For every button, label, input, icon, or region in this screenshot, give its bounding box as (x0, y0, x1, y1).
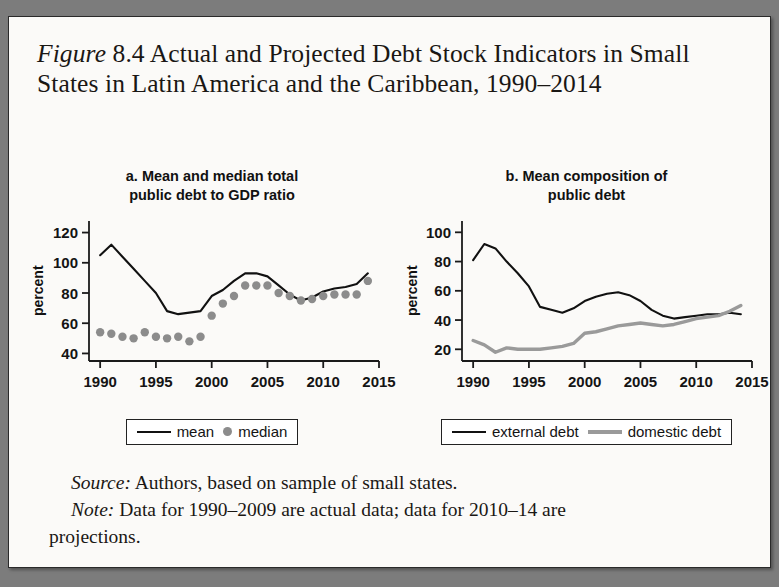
source-text: Authors, based on sample of small states… (131, 472, 458, 493)
legend-label-domestic-debt: domestic debt (628, 423, 721, 440)
data-point-median (230, 292, 238, 300)
x-tick-label: 2015 (362, 373, 395, 390)
data-point-median (341, 290, 349, 298)
panel-a-plot: 406080100120 199019952000200520102015 pe… (27, 213, 397, 413)
x-tick-label: 2000 (568, 373, 601, 390)
data-point-median (308, 295, 316, 303)
page-title: Figure 8.4 Actual and Projected Debt Sto… (37, 39, 727, 99)
line-swatch-gray-icon (588, 430, 622, 434)
y-tick-label: 80 (61, 285, 78, 302)
data-point-median (330, 290, 338, 298)
panel-b-y-axis-title: percent (404, 265, 420, 316)
panel-b-x-ticks: 199019952000200520102015 (456, 361, 768, 390)
panel-a-y-axis-title: percent (30, 265, 46, 316)
note-text: Data for 1990–2009 are actual data; data… (114, 499, 566, 520)
panel-a-y-ticks: 406080100120 (53, 224, 89, 362)
panel-b-y-ticks: 20406080100 (426, 224, 462, 358)
data-point-median (118, 333, 126, 341)
panel-b: b. Mean composition of public debt 20406… (404, 167, 769, 445)
x-tick-label: 2005 (624, 373, 657, 390)
panel-b-svg: 20406080100 199019952000200520102015 per… (404, 213, 769, 413)
legend-item-domestic-debt: domestic debt (588, 423, 721, 440)
data-point-median (241, 281, 249, 289)
figure-page: Figure 8.4 Actual and Projected Debt Sto… (8, 16, 771, 568)
series-line-domestic-debt (473, 305, 741, 352)
panel-b-legend: external debt domestic debt (441, 419, 732, 445)
legend-item-mean: mean (137, 423, 215, 440)
panel-a-legend: mean median (126, 419, 299, 445)
panel-b-title-line1: b. Mean composition of (506, 168, 668, 184)
line-swatch-icon (137, 431, 171, 433)
x-tick-label: 1995 (512, 373, 545, 390)
data-point-median (263, 281, 271, 289)
x-tick-label: 2010 (307, 373, 340, 390)
legend-label-external-debt: external debt (492, 423, 579, 440)
legend-item-external-debt: external debt (452, 423, 579, 440)
y-tick-label: 120 (53, 224, 78, 241)
data-point-median (364, 277, 372, 285)
x-tick-label: 1990 (83, 373, 116, 390)
panel-b-plot: 20406080100 199019952000200520102015 per… (404, 213, 769, 413)
data-point-median (196, 333, 204, 341)
note-label: Note: (71, 499, 114, 520)
data-point-median (219, 299, 227, 307)
y-tick-label: 100 (426, 224, 451, 241)
panel-a-svg: 406080100120 199019952000200520102015 pe… (27, 213, 397, 413)
data-point-median (352, 290, 360, 298)
figure-label: Figure (37, 39, 106, 68)
y-tick-label: 60 (61, 315, 78, 332)
legend-item-median: median (223, 423, 287, 440)
data-point-median (107, 330, 115, 338)
x-tick-label: 1995 (139, 373, 172, 390)
figure-notes: Source: Authors, based on sample of smal… (49, 469, 739, 550)
panel-a-title-line2: public debt to GDP ratio (129, 187, 295, 203)
y-tick-label: 100 (53, 254, 78, 271)
data-point-median (286, 292, 294, 300)
data-point-median (129, 334, 137, 342)
data-point-median (274, 289, 282, 297)
x-tick-label: 2000 (195, 373, 228, 390)
x-tick-label: 2015 (735, 373, 768, 390)
data-point-median (252, 281, 260, 289)
data-point-median (319, 292, 327, 300)
series-line-external-debt (473, 244, 741, 319)
figure-number-value: 8.4 (113, 39, 145, 68)
y-tick-label: 80 (434, 253, 451, 270)
source-line: Source: Authors, based on sample of smal… (49, 469, 739, 496)
panel-a-title-line1: a. Mean and median total (126, 168, 298, 184)
data-point-median (174, 333, 182, 341)
x-tick-label: 2005 (251, 373, 284, 390)
legend-label-median: median (238, 423, 287, 440)
y-tick-label: 20 (434, 341, 451, 358)
line-swatch-icon (452, 431, 486, 433)
data-point-median (207, 311, 215, 319)
panel-b-series (473, 244, 741, 352)
data-point-median (297, 296, 305, 304)
source-label: Source: (71, 472, 131, 493)
panel-b-title: b. Mean composition of public debt (404, 167, 769, 205)
panel-a: a. Mean and median total public debt to … (27, 167, 397, 445)
data-point-median (185, 337, 193, 345)
x-tick-label: 2010 (680, 373, 713, 390)
y-tick-label: 40 (61, 345, 78, 362)
panel-a-title: a. Mean and median total public debt to … (27, 167, 397, 205)
data-point-median (96, 328, 104, 336)
panel-a-x-ticks: 199019952000200520102015 (83, 361, 395, 390)
legend-label-mean: mean (177, 423, 215, 440)
panel-a-series (96, 245, 372, 346)
note-line: Note: Data for 1990–2009 are actual data… (49, 496, 739, 523)
x-tick-label: 1990 (456, 373, 489, 390)
data-point-median (152, 333, 160, 341)
panel-b-title-line2: public debt (548, 187, 625, 203)
note-line-continued: projections. (49, 523, 739, 550)
y-tick-label: 40 (434, 312, 451, 329)
data-point-median (163, 334, 171, 342)
y-tick-label: 60 (434, 282, 451, 299)
data-point-median (141, 328, 149, 336)
dot-swatch-icon (223, 427, 232, 436)
series-line-mean (100, 245, 368, 315)
